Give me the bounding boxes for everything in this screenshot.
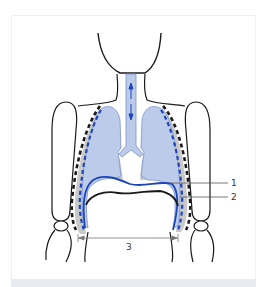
diaphragm-inspiration bbox=[84, 177, 178, 230]
width-dimension-line bbox=[78, 234, 178, 242]
label-3: 3 bbox=[126, 242, 132, 252]
label-2: 2 bbox=[231, 192, 237, 202]
elbow-left bbox=[54, 221, 68, 231]
diaphragm-expiration bbox=[86, 191, 178, 206]
label-1: 1 bbox=[231, 178, 237, 188]
elbow-right bbox=[194, 221, 208, 231]
head-outline bbox=[98, 33, 161, 73]
lung-left bbox=[82, 107, 121, 229]
arm-right-upper bbox=[185, 102, 210, 221]
neck-left-outline bbox=[78, 74, 118, 106]
torso-left-lower bbox=[85, 232, 88, 262]
breathing-diagram: 1 2 3 bbox=[0, 0, 266, 287]
forearm-left bbox=[46, 230, 71, 262]
neck-right-outline bbox=[145, 74, 185, 106]
forearm-right bbox=[191, 230, 214, 262]
